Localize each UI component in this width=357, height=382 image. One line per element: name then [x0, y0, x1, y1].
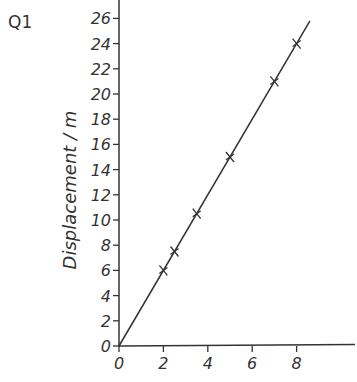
x-axis-ticks: 02468 [114, 346, 302, 373]
y-tick-label: 22 [91, 60, 111, 79]
y-tick-label: 20 [91, 85, 111, 104]
x-axis-line [118, 345, 355, 347]
x-tick-label: 0 [114, 354, 124, 373]
y-tick-label: 18 [91, 110, 111, 129]
best-fit-line [119, 21, 310, 346]
y-tick-label: 2 [101, 312, 111, 331]
y-tick-label: 0 [101, 337, 111, 356]
chart-axes [118, 0, 355, 347]
y-tick-label: 8 [101, 236, 111, 255]
y-tick-label: 10 [91, 211, 111, 230]
y-tick-label: 12 [91, 186, 111, 205]
data-series [119, 21, 310, 346]
y-tick-label: 14 [91, 161, 111, 180]
x-tick-label: 2 [158, 354, 168, 373]
y-tick-label: 16 [91, 135, 111, 154]
y-tick-label: 4 [101, 287, 111, 306]
y-tick-label: 26 [91, 9, 111, 28]
y-tick-label: 6 [101, 261, 111, 280]
y-tick-label: 24 [91, 35, 111, 54]
y-axis-ticks: 02468101214161820222426 [91, 9, 119, 356]
x-tick-label: 4 [203, 354, 213, 373]
displacement-chart: 02468101214161820222426 02468 Displaceme… [0, 0, 357, 382]
x-tick-label: 6 [247, 354, 257, 373]
y-axis-title: Displacement / m [59, 111, 80, 270]
x-tick-label: 8 [292, 354, 302, 373]
